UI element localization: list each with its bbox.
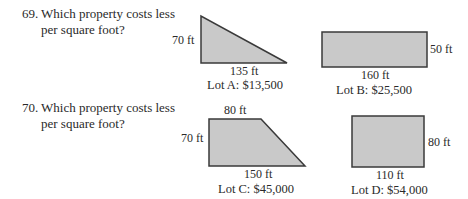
- lot-b-rectangle: [322, 32, 427, 67]
- lot-c-trapezoid: [209, 119, 305, 166]
- lot-c-base-label: 150 ft: [244, 167, 272, 182]
- lot-b-caption: Lot B: $25,500: [336, 83, 412, 98]
- lot-a-triangle: [201, 16, 287, 63]
- lot-c-caption: Lot C: $45,000: [218, 182, 294, 197]
- lot-c-height-label: 70 ft: [181, 131, 203, 146]
- lot-d-width-label: 110 ft: [376, 168, 404, 183]
- lot-a-base-label: 135 ft: [230, 64, 258, 79]
- lot-a-caption: Lot A: $13,500: [207, 78, 283, 93]
- lot-b-width-label: 160 ft: [361, 68, 389, 83]
- lot-a-height-label: 70 ft: [172, 33, 194, 48]
- lot-d-caption: Lot D: $54,000: [351, 183, 428, 198]
- lot-d-rectangle: [352, 116, 424, 167]
- lot-d-height-label: 80 ft: [428, 135, 450, 150]
- lot-c-top-label: 80 ft: [224, 103, 246, 118]
- lot-b-height-label: 50 ft: [430, 42, 452, 57]
